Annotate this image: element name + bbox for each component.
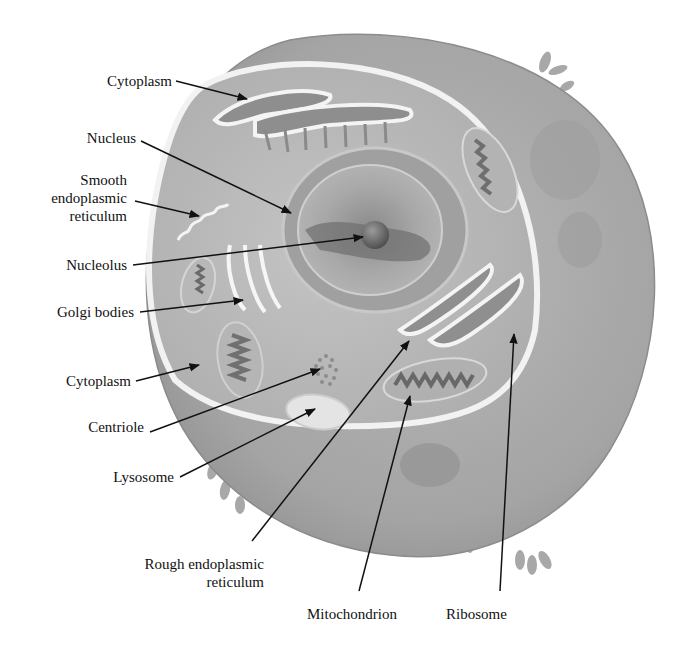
label-nucleolus: Nucleolus bbox=[20, 256, 127, 274]
nucleolus bbox=[361, 221, 389, 249]
cell-illustration bbox=[0, 0, 688, 647]
label-rough-er-line2: reticulum bbox=[100, 573, 264, 591]
label-rough-er: Rough endoplasmic reticulum bbox=[100, 555, 264, 591]
label-cytoplasm-mid: Cytoplasm bbox=[20, 372, 131, 390]
label-smooth-er-line3: reticulum bbox=[20, 207, 127, 225]
label-smooth-er-line1: Smooth bbox=[20, 171, 127, 189]
label-nucleus: Nucleus bbox=[40, 129, 136, 147]
label-mitochondrion: Mitochondrion bbox=[307, 605, 397, 623]
label-cytoplasm-top: Cytoplasm bbox=[60, 72, 172, 90]
label-rough-er-line1: Rough endoplasmic bbox=[100, 555, 264, 573]
label-ribosome: Ribosome bbox=[446, 605, 507, 623]
label-smooth-er: Smooth endoplasmic reticulum bbox=[20, 171, 127, 225]
label-golgi-bodies: Golgi bodies bbox=[20, 303, 134, 321]
label-centriole: Centriole bbox=[40, 418, 144, 436]
nucleus bbox=[283, 148, 467, 312]
label-smooth-er-line2: endoplasmic bbox=[20, 189, 127, 207]
cell-diagram: Cytoplasm Nucleus Smooth endoplasmic ret… bbox=[0, 0, 688, 647]
label-lysosome: Lysosome bbox=[60, 468, 174, 486]
